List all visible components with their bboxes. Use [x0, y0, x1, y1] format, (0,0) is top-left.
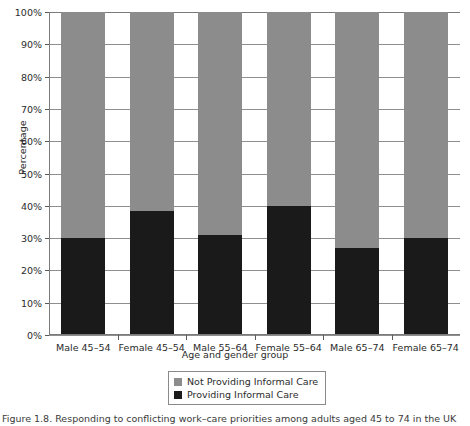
y-tick-label: 40%: [21, 200, 42, 211]
gridline: [49, 109, 460, 110]
legend-swatch-providing: [174, 391, 182, 399]
gridline: [49, 303, 460, 304]
y-tick-label: 10%: [21, 297, 42, 308]
gridline: [49, 44, 460, 45]
gridline: [49, 174, 460, 175]
bar-segment-not-providing: [61, 12, 105, 238]
y-axis-spine: [49, 12, 50, 335]
y-tick-label: 100%: [15, 7, 42, 18]
y-tick-label: 60%: [21, 136, 42, 147]
y-tick-mark: [45, 335, 49, 336]
bar-segment-not-providing: [198, 12, 242, 235]
bar-segment-providing: [267, 206, 311, 335]
bar-segment-providing: [404, 238, 448, 335]
bar-segment-not-providing: [404, 12, 448, 238]
plot-area: 0%10%20%30%40%50%60%70%80%90%100% Male 4…: [49, 12, 460, 335]
x-tick-mark: [323, 335, 324, 340]
stacked-bar: [335, 12, 379, 335]
legend-item-providing: Providing Informal Care: [174, 388, 318, 401]
y-tick-label: 20%: [21, 265, 42, 276]
x-axis-title: Age and gender group: [0, 349, 470, 360]
legend-label-providing: Providing Informal Care: [187, 389, 299, 400]
stacked-bar: [267, 12, 311, 335]
x-tick-mark: [118, 335, 119, 340]
legend-label-not-providing: Not Providing Informal Care: [187, 376, 318, 387]
gridline: [49, 141, 460, 142]
legend-item-not-providing: Not Providing Informal Care: [174, 375, 318, 388]
bar-segment-providing: [198, 235, 242, 335]
bar-segment-not-providing: [335, 12, 379, 248]
gridline: [49, 12, 460, 13]
bar-segment-providing: [335, 248, 379, 335]
stacked-bar: [404, 12, 448, 335]
stacked-bar: [198, 12, 242, 335]
legend-swatch-not-providing: [174, 378, 182, 386]
y-tick-label: 80%: [21, 71, 42, 82]
x-axis-spine: [49, 334, 460, 335]
gridline: [49, 270, 460, 271]
gridline: [49, 238, 460, 239]
bar-segment-providing: [61, 238, 105, 335]
figure-container: Percentage 0%10%20%30%40%50%60%70%80%90%…: [0, 0, 470, 426]
x-tick-mark: [392, 335, 393, 340]
y-tick-label: 0%: [27, 330, 42, 341]
bar-segment-providing: [130, 211, 174, 335]
bar-segment-not-providing: [130, 12, 174, 211]
chart-legend: Not Providing Informal Care Providing In…: [168, 371, 326, 405]
stacked-bar: [61, 12, 105, 335]
figure-caption: Figure 1.8. Responding to conflicting wo…: [2, 412, 468, 426]
y-tick-label: 70%: [21, 103, 42, 114]
gridline: [49, 206, 460, 207]
x-tick-mark: [186, 335, 187, 340]
gridline: [49, 77, 460, 78]
bar-segment-not-providing: [267, 12, 311, 206]
y-tick-label: 30%: [21, 233, 42, 244]
stacked-bar: [130, 12, 174, 335]
y-tick-label: 90%: [21, 39, 42, 50]
y-tick-label: 50%: [21, 168, 42, 179]
x-tick-mark: [255, 335, 256, 340]
